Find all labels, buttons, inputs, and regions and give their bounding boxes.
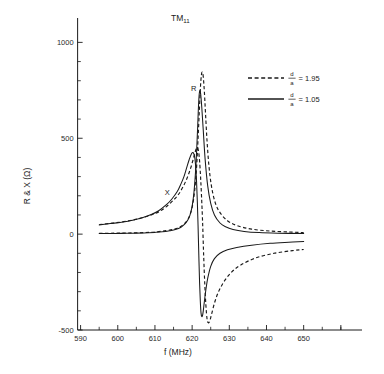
x-tick-label: 610 xyxy=(149,334,162,343)
x-tick-label: 620 xyxy=(186,334,199,343)
legend-fraction-denominator: a xyxy=(290,80,294,86)
x-tick-label: 590 xyxy=(74,334,87,343)
figure-container: -50005001000590600610620630640650 RX da=… xyxy=(0,0,384,374)
impedance-chart: -50005001000590600610620630640650 RX da=… xyxy=(0,0,384,374)
x-tick-label: 640 xyxy=(260,334,273,343)
curve-group xyxy=(99,72,303,323)
reactance-curve-label: X xyxy=(165,188,170,197)
y-tick-label: 500 xyxy=(61,134,74,143)
x-tick-label: 650 xyxy=(297,334,310,343)
y-tick-label: 1000 xyxy=(57,38,74,47)
x-axis-title: f (MHz) xyxy=(164,347,192,357)
legend-value-label: = 1.95 xyxy=(299,74,320,83)
legend: da= 1.95da= 1.05 xyxy=(248,71,320,107)
legend-fraction-denominator: a xyxy=(290,101,294,107)
legend-fraction-numerator: d xyxy=(290,92,293,98)
y-tick-label: 0 xyxy=(69,230,73,239)
y-axis-title: R & X (Ω) xyxy=(22,168,32,205)
curve-x-ratio-1-95 xyxy=(99,147,303,322)
curve-r-ratio-1-05 xyxy=(99,91,303,234)
legend-fraction-numerator: d xyxy=(290,71,293,77)
axes xyxy=(78,18,362,330)
curve-x-ratio-1-05 xyxy=(99,152,303,316)
x-tick-label: 630 xyxy=(223,334,236,343)
plot-title: TM11 xyxy=(171,13,190,24)
x-tick-label: 600 xyxy=(112,334,125,343)
tick-labels: -50005001000590600610620630640650 xyxy=(57,38,310,343)
resistance-curve-label: R xyxy=(191,84,197,93)
y-tick-label: -500 xyxy=(59,326,74,335)
curve-annotations: RX xyxy=(165,84,197,197)
legend-value-label: = 1.05 xyxy=(299,95,320,104)
